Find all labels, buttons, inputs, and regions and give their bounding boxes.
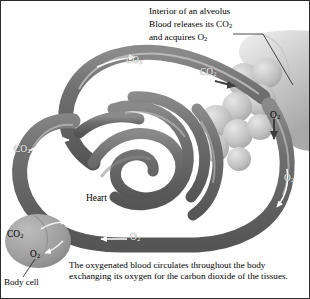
co2-label-body-cell: CO2 — [7, 229, 24, 240]
blood-releases-subscript: 2 — [229, 22, 232, 29]
o2-label-body-cell: O2 — [30, 249, 40, 260]
flow-arrow-heart — [76, 175, 95, 193]
co2-subscript: 2 — [139, 58, 142, 65]
blood-acquires-subscript: 2 — [204, 35, 207, 42]
co2-label-left-vessel: CO2 — [14, 144, 31, 155]
circulation-diagram — [1, 1, 310, 299]
alveolus-heading: Interior of an alveolus — [149, 6, 230, 17]
o2-subscript: 2 — [137, 235, 140, 242]
co2-subscript: 2 — [213, 70, 216, 77]
o2-subscript: 2 — [277, 113, 280, 120]
co2-symbol: CO — [200, 67, 213, 77]
body-cell-label: Body cell — [4, 277, 39, 288]
blood-acquires-text: and acquires O2 — [149, 32, 207, 43]
o2-symbol: O — [270, 110, 277, 120]
body-cell-group — [5, 214, 71, 277]
co2-symbol: CO — [126, 55, 139, 65]
o2-label-alveolus-exit: O2 — [270, 110, 280, 121]
figure-panel: Interior of an alveolus Blood releases i… — [0, 0, 310, 299]
o2-subscript: 2 — [37, 252, 40, 259]
o2-label-right-vessel: O2 — [284, 173, 294, 184]
o2-subscript: 2 — [291, 176, 294, 183]
blood-releases-text: Blood releases its CO2 — [149, 19, 232, 30]
co2-label-alveolus-entry: CO2 — [200, 67, 217, 78]
co2-subscript: 2 — [20, 232, 23, 239]
o2-label-lower-vessel: O2 — [130, 232, 140, 243]
o2-symbol: O — [30, 249, 37, 259]
co2-label-upper-vessel: CO2 — [126, 55, 143, 66]
co2-subscript: 2 — [27, 147, 30, 154]
vessel-loop — [20, 52, 289, 245]
o2-symbol: O — [130, 232, 137, 242]
co2-symbol: CO — [14, 144, 27, 154]
figure-caption: The oxygenated blood circulates througho… — [69, 260, 307, 282]
blood-acquires-prefix: and acquires O — [149, 32, 204, 42]
heart-label: Heart — [86, 193, 107, 204]
co2-symbol: CO — [7, 229, 20, 239]
blood-releases-prefix: Blood releases its CO — [149, 19, 229, 29]
o2-symbol: O — [284, 173, 291, 183]
